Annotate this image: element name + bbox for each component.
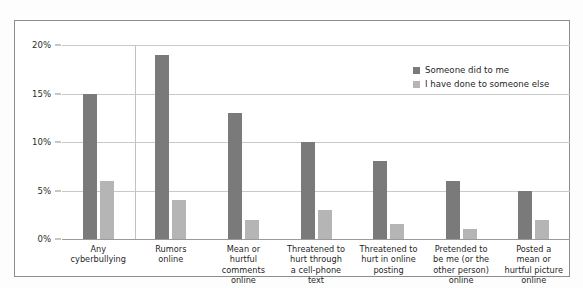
y-axis-tick-label: 5% [17, 186, 51, 195]
legend-swatch-series-1 [413, 67, 420, 74]
gridline [62, 94, 570, 95]
y-axis-tick-mark [55, 93, 61, 94]
legend-item: Someone did to me [413, 65, 549, 76]
bar [155, 55, 169, 239]
bar [518, 191, 532, 240]
bar [463, 229, 477, 239]
y-axis-tick-mark [55, 45, 61, 46]
gridline [62, 191, 570, 192]
bar [100, 181, 114, 239]
bar [446, 181, 460, 239]
bar [535, 220, 549, 239]
x-axis-category-label: Posted a mean or hurtful picture online [491, 244, 576, 286]
legend-item: I have done to someone else [413, 79, 549, 90]
y-axis-tick-mark [55, 190, 61, 191]
legend-swatch-series-2 [413, 81, 420, 88]
bar [83, 94, 97, 240]
y-axis-tick-label: 20% [17, 41, 51, 50]
bar [228, 113, 242, 239]
gridline [62, 239, 570, 240]
bar [390, 224, 404, 239]
legend-label-series-2: I have done to someone else [425, 80, 549, 89]
bar [373, 161, 387, 239]
y-axis-tick-mark [55, 239, 61, 240]
gridline [62, 142, 570, 143]
bar [172, 200, 186, 239]
gridline [62, 45, 570, 46]
y-axis-tick-label: 0% [17, 235, 51, 244]
chart-legend: Someone did to me I have done to someone… [413, 65, 549, 93]
legend-label-series-1: Someone did to me [425, 66, 509, 75]
bar [318, 210, 332, 239]
category-divider [135, 45, 136, 239]
chart-figure-frame: Someone did to me I have done to someone… [14, 20, 570, 277]
bar [245, 220, 259, 239]
bar [301, 142, 315, 239]
y-axis-tick-label: 10% [17, 138, 51, 147]
y-axis-tick-label: 15% [17, 89, 51, 98]
y-axis-tick-mark [55, 142, 61, 143]
